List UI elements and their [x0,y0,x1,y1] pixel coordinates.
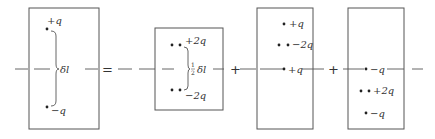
equals-sign: = [102,62,113,77]
plus-sign-1: + [230,62,241,77]
charge-dot [46,106,49,109]
charge-label-plus-2q: +2q [373,85,394,96]
separation-label: δl [60,64,69,75]
charge-decomposition-diagram: +q −q δl = +2q −2q 1 2 δl + +q −2q +q + [0,0,435,139]
brace-icon [184,47,190,90]
charge-label-plus-q: +q [288,64,303,75]
charge-dot [46,28,49,31]
separation-label: δl [197,64,206,75]
charge-label-plus-2q: +2q [185,35,206,46]
charge-label-minus-2q: −2q [292,39,313,50]
brace-icon [51,31,59,106]
fraction-half: 1 [191,61,195,68]
charge-label-plus-q: +q [47,15,62,26]
charge-label-plus-q: +q [289,18,304,29]
charge-label-minus-q: −q [370,108,385,119]
charge-label-minus-q: −q [51,105,66,116]
svg-text:2: 2 [191,69,195,76]
charge-label-minus-2q: −2q [185,90,206,101]
charge-label-minus-q: −q [370,64,385,75]
plus-sign-2: + [328,62,339,77]
